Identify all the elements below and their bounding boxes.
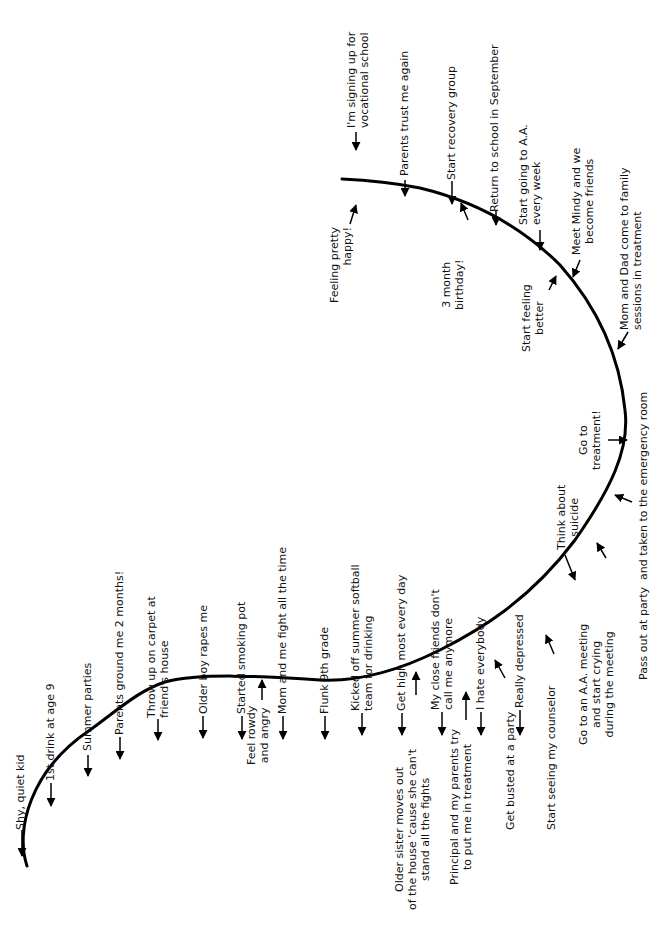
event-counselor: Start seeing my counselor — [545, 686, 558, 830]
event-trust: Parents trust me again — [398, 51, 411, 176]
event-get-high: Get high most every day — [395, 575, 408, 711]
event-aa-meeting: Go to an A.A. meeting and start crying d… — [577, 624, 616, 745]
event-suicide: Think about suicide — [555, 485, 581, 550]
event-summer-parties: Summer parties — [81, 663, 94, 751]
event-older-boy: Older boy rapes me — [197, 605, 210, 714]
event-mom-fight: Mom and me fight all the time — [276, 547, 289, 714]
life-curve — [23, 179, 626, 866]
event-throw-up: Throw up on carpet at friend's house — [145, 596, 171, 718]
event-depressed: Really depressed — [513, 614, 526, 708]
event-flunk: Flunk 9th grade — [318, 627, 331, 714]
event-sister: Older sister moves out of the house 'cau… — [393, 749, 432, 910]
event-shy-quiet-kid: Shy, quiet kid — [14, 755, 27, 830]
event-rowdy: Feel rowdy and angry — [245, 706, 271, 765]
event-smoking-pot: Started smoking pot — [235, 602, 248, 714]
event-grounded: Parents ground me 2 months! — [113, 571, 126, 735]
event-friends: My close friends don't call me anymore — [429, 589, 455, 710]
event-three-month: 3 month birthday! — [440, 260, 466, 311]
event-first-drink: 1st drink at age 9 — [44, 684, 57, 781]
event-school: Return to school in September — [488, 44, 501, 212]
event-treatment: Go to treatment! — [577, 410, 603, 470]
event-pass-out: Pass out at party and taken to the emerg… — [637, 392, 650, 680]
event-happy: Feeling pretty happy! — [328, 227, 354, 303]
event-vocational: I'm signing up for vocational school — [345, 32, 371, 128]
event-recovery-group: Start recovery group — [445, 66, 458, 180]
event-busted: Get busted at a party — [504, 712, 517, 830]
event-softball: Kicked off summer softball team for drin… — [349, 564, 375, 711]
event-feeling-better: Start feeling better — [520, 284, 546, 352]
event-principal: Principal and my parents try to put me i… — [448, 729, 474, 885]
event-family-sessions: Mom and Dad come to family sessions in t… — [618, 167, 644, 330]
event-hate: I hate everybody — [474, 617, 487, 710]
event-aa-weekly: Start going to A.A. every week — [517, 124, 543, 225]
event-mindy: Meet Mindy and we become friends — [570, 148, 596, 255]
life-curve-diagram — [0, 0, 660, 944]
